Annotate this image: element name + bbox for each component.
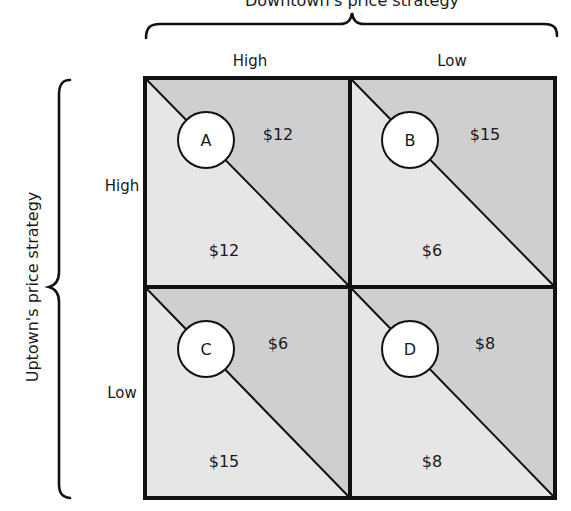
cell-d: D $8 $8	[350, 287, 555, 498]
cell-d-row-player-payoff: $8	[422, 452, 442, 471]
column-label-high: High	[233, 52, 267, 70]
row-label-low: Low	[107, 384, 137, 402]
row-player-title: Uptown's price strategy	[23, 192, 42, 383]
cell-d-label: D	[404, 340, 416, 359]
cell-c-label: C	[200, 340, 211, 359]
column-brace	[146, 13, 557, 38]
cell-a-label: A	[201, 131, 212, 150]
cell-c-row-player-payoff: $15	[209, 452, 240, 471]
cell-c: C $6 $15	[145, 287, 350, 498]
cell-b-row-player-payoff: $6	[422, 241, 442, 260]
column-player-title: Downtown's price strategy	[245, 0, 459, 10]
cell-a: A $12 $12	[145, 78, 350, 287]
cell-b-label: B	[405, 131, 416, 150]
cell-a-column-player-payoff: $12	[263, 125, 294, 144]
cell-a-row-player-payoff: $12	[209, 241, 240, 260]
cell-b: B $15 $6	[350, 78, 555, 287]
cell-b-column-player-payoff: $15	[470, 125, 501, 144]
cell-d-column-player-payoff: $8	[475, 334, 495, 353]
payoff-matrix-diagram: Downtown's price strategy High Low Uptow…	[0, 0, 571, 511]
column-label-low: Low	[437, 52, 467, 70]
cell-c-column-player-payoff: $6	[268, 334, 288, 353]
row-label-high: High	[105, 177, 139, 195]
row-brace	[49, 80, 70, 498]
